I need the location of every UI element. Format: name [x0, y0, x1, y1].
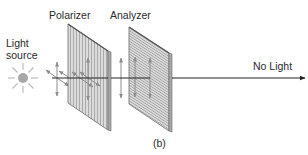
light-source-label-line2: source	[6, 49, 38, 61]
light-source-icon	[8, 63, 38, 93]
polarization-diagram	[0, 0, 308, 155]
polarizer-label: Polarizer	[49, 9, 90, 21]
analyzer-label: Analyzer	[110, 9, 151, 21]
figure-caption: (b)	[153, 137, 166, 149]
light-source-label-line1: Light	[6, 37, 29, 49]
output-label: No Light	[253, 60, 292, 72]
